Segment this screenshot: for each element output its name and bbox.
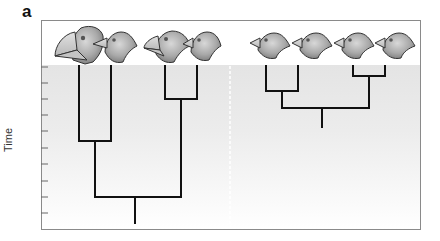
- finch-head-icon: [183, 32, 221, 61]
- finch-head-icon: [292, 33, 332, 59]
- right-phylogeny: [266, 66, 385, 127]
- phylogeny-diagram: [0, 0, 440, 241]
- left-phylogeny: [79, 66, 197, 223]
- finch-head-icon: [334, 33, 374, 59]
- finch-head-icon: [375, 33, 415, 59]
- finch-head-icon: [144, 31, 190, 63]
- time-axis-ticks: [41, 67, 48, 213]
- finch-head-icon: [250, 33, 290, 59]
